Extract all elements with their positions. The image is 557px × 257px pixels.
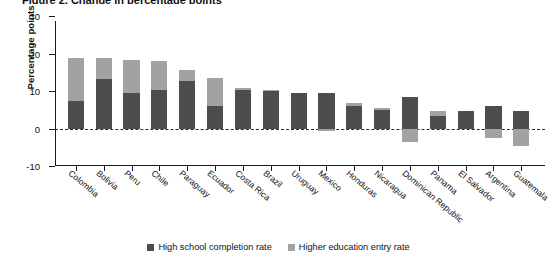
bar-segment-higher-education: [318, 129, 334, 131]
x-axis-label: Guatemala: [512, 168, 551, 203]
x-axis-label: Uruguay: [289, 168, 320, 197]
x-axis-labels: ColombiaBoliviaPeruChileParaguayEcuadorC…: [55, 168, 555, 228]
x-axis-label: Mexico: [317, 168, 344, 193]
legend-label-higher-education: Higher education entry rate: [299, 242, 410, 252]
y-tick-label: -10: [26, 161, 40, 172]
bar-group[interactable]: [458, 16, 474, 166]
bar-segment-higher-education: [430, 111, 446, 116]
x-axis-label: Chile: [150, 168, 171, 188]
bar-segment-higher-education: [513, 129, 529, 146]
chart-figure: Figure 2. Change in percentage points Pe…: [0, 0, 557, 257]
bar-group[interactable]: [318, 16, 334, 166]
chart-legend: High school completion rate Higher educa…: [0, 242, 557, 252]
bar-group[interactable]: [346, 16, 362, 166]
bar-segment-high-school: [402, 97, 418, 129]
dark-square-swatch-icon: [147, 244, 154, 251]
bar-series-group: [55, 16, 545, 166]
bar-segment-higher-education: [123, 60, 139, 93]
bar-segment-higher-education: [374, 108, 390, 110]
bar-group[interactable]: [179, 16, 195, 166]
bar-segment-higher-education: [263, 90, 279, 92]
figure-title: Figure 2. Change in percentage points: [22, 0, 542, 4]
bar-segment-high-school: [485, 106, 501, 129]
bar-segment-high-school: [346, 106, 362, 129]
bar-segment-higher-education: [68, 58, 84, 101]
bar-segment-high-school: [374, 110, 390, 129]
y-tick: -10: [49, 166, 55, 167]
bar-segment-higher-education: [179, 70, 195, 81]
bar-group[interactable]: [207, 16, 223, 166]
bar-segment-higher-education: [96, 58, 112, 79]
bar-group[interactable]: [263, 16, 279, 166]
y-tick-label: 30: [29, 11, 40, 22]
bar-segment-higher-education: [346, 103, 362, 105]
bar-group[interactable]: [123, 16, 139, 166]
bar-segment-higher-education: [207, 78, 223, 106]
light-square-swatch-icon: [288, 244, 295, 251]
bar-group[interactable]: [485, 16, 501, 166]
bar-segment-high-school: [513, 111, 529, 128]
bar-group[interactable]: [430, 16, 446, 166]
bar-group[interactable]: [402, 16, 418, 166]
bar-segment-high-school: [263, 91, 279, 128]
y-tick-label: 10: [29, 86, 40, 97]
bar-segment-high-school: [96, 79, 112, 129]
bar-segment-high-school: [179, 81, 195, 129]
x-axis-label: Peru: [122, 168, 142, 187]
x-axis-label: Brazil: [261, 168, 284, 189]
legend-item-high-school[interactable]: High school completion rate: [147, 242, 271, 252]
bar-group[interactable]: [235, 16, 251, 166]
bar-segment-high-school: [235, 90, 251, 129]
y-tick-label: 20: [29, 48, 40, 59]
bar-segment-high-school: [151, 90, 167, 129]
bar-group[interactable]: [291, 16, 307, 166]
plot-area: 3020100-10: [55, 16, 545, 166]
bar-segment-higher-education: [485, 129, 501, 138]
bar-segment-higher-education: [402, 129, 418, 143]
bar-segment-high-school: [123, 93, 139, 128]
bar-segment-high-school: [68, 101, 84, 129]
bar-segment-high-school: [291, 93, 307, 129]
bar-group[interactable]: [151, 16, 167, 166]
bar-group[interactable]: [513, 16, 529, 166]
bar-group[interactable]: [374, 16, 390, 166]
bar-segment-high-school: [430, 116, 446, 129]
bar-group[interactable]: [96, 16, 112, 166]
bar-group[interactable]: [68, 16, 84, 166]
bar-segment-higher-education: [151, 61, 167, 89]
bar-segment-higher-education: [235, 88, 251, 90]
bar-segment-high-school: [318, 93, 334, 128]
legend-item-higher-education[interactable]: Higher education entry rate: [288, 242, 410, 252]
legend-label-high-school: High school completion rate: [158, 242, 271, 252]
bar-segment-high-school: [458, 111, 474, 128]
y-tick-label: 0: [35, 123, 40, 134]
bar-segment-high-school: [207, 106, 223, 129]
